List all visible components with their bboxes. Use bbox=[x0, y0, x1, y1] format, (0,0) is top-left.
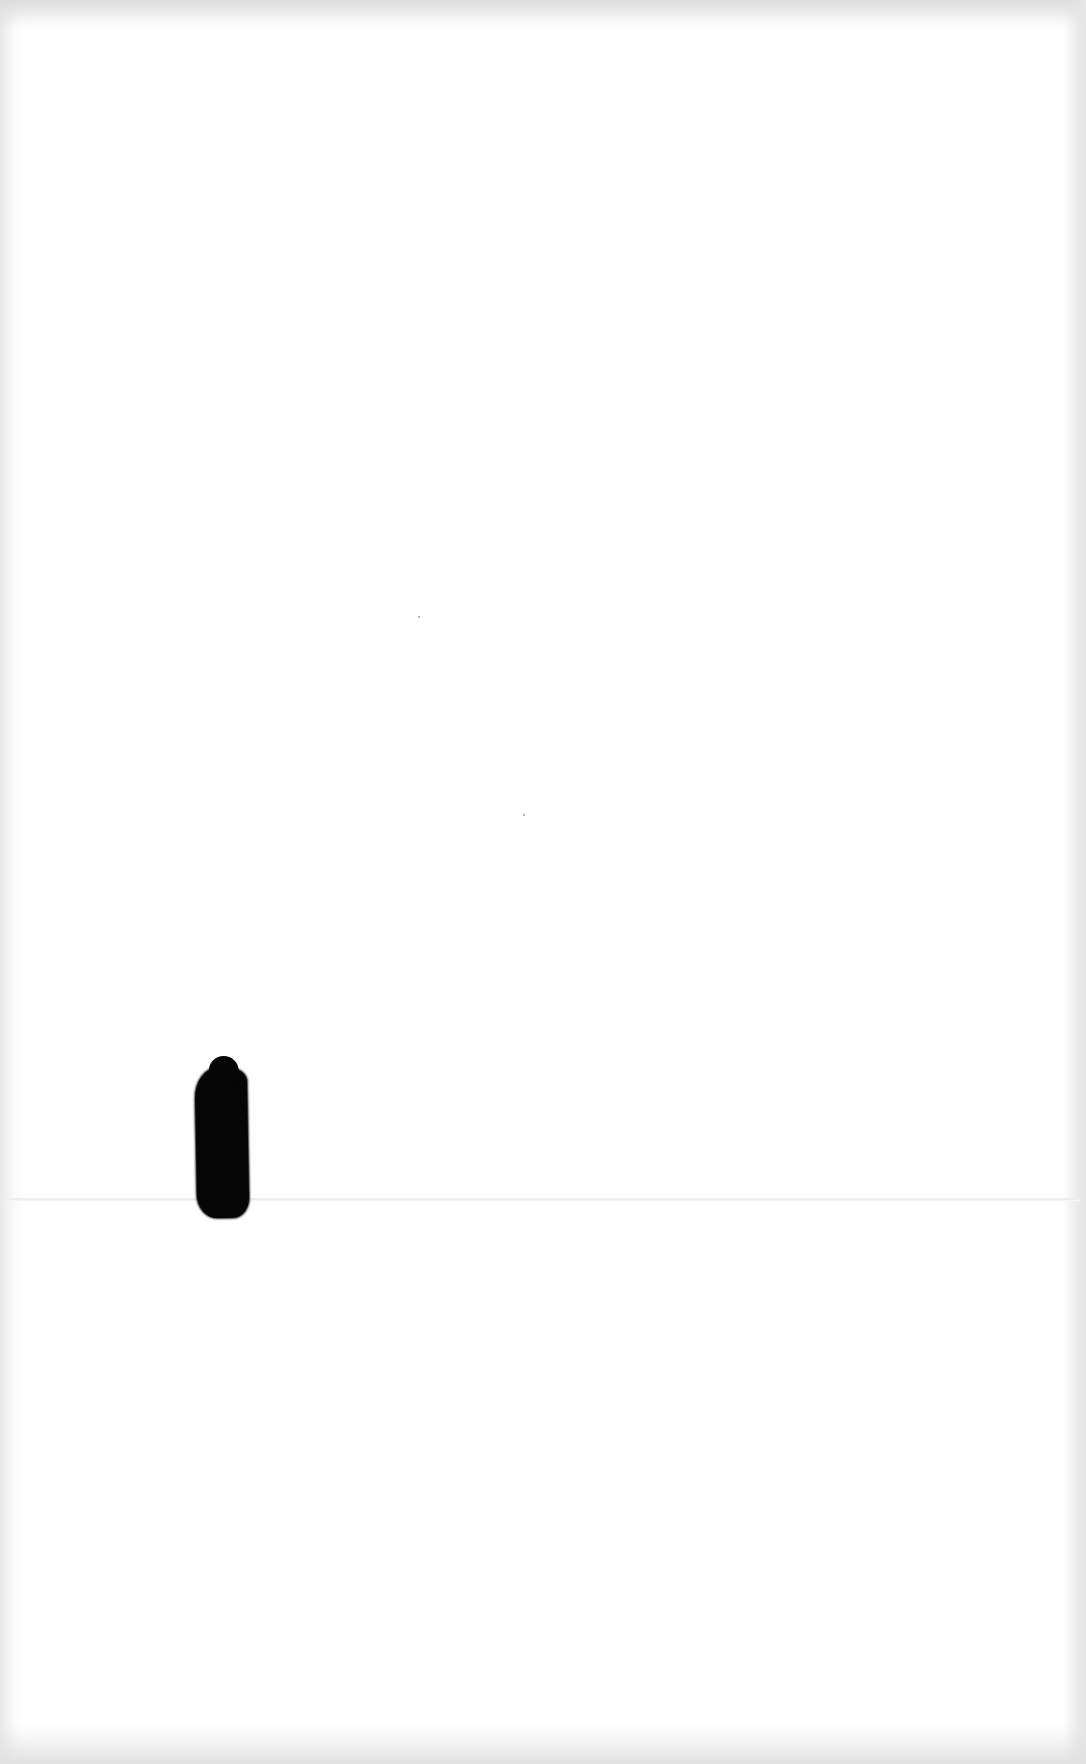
scan-edge-right bbox=[1064, 0, 1086, 1764]
dust-speck bbox=[418, 616, 420, 618]
scanned-page bbox=[0, 0, 1086, 1764]
scan-edge-bottom bbox=[0, 1724, 1086, 1764]
fold-line bbox=[6, 1198, 1080, 1201]
ink-blot bbox=[195, 1068, 250, 1219]
scan-edge-top bbox=[0, 0, 1086, 28]
dust-speck bbox=[523, 814, 525, 816]
